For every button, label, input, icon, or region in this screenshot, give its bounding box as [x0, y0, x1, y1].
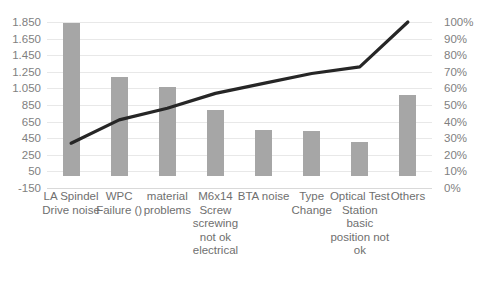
pareto-chart: 1.8501.6501.4501.2501.05085065045025050-… — [0, 0, 499, 292]
y-axis-right-tick: 60% — [444, 82, 467, 94]
y-axis-left-tick: 250 — [22, 149, 41, 161]
gridline — [47, 22, 432, 23]
bar — [159, 87, 176, 175]
y-axis-left-tick: 1.650 — [12, 33, 41, 45]
bar — [207, 110, 224, 175]
gridline — [47, 155, 432, 156]
gridline — [47, 171, 432, 172]
bar — [63, 23, 80, 176]
y-axis-left-tick: 850 — [22, 99, 41, 111]
y-axis-right-tick: 10% — [444, 165, 467, 177]
gridline — [47, 72, 432, 73]
gridline — [47, 88, 432, 89]
y-axis-left-tick: 1.250 — [12, 66, 41, 78]
bar — [303, 131, 320, 176]
y-axis-left-tick: 1.450 — [12, 49, 41, 61]
y-axis-left-tick: 650 — [22, 116, 41, 128]
y-axis-left-tick: 1.850 — [12, 16, 41, 28]
y-axis-left-tick: 1.050 — [12, 82, 41, 94]
gridline — [47, 188, 432, 189]
x-axis-category-label: Others — [377, 190, 439, 204]
gridline — [47, 105, 432, 106]
plot-area — [47, 22, 432, 188]
y-axis-right-tick: 80% — [444, 49, 467, 61]
gridline — [47, 39, 432, 40]
y-axis-right-tick: 30% — [444, 132, 467, 144]
x-axis-category-labels: LA Spindel Drive noiseWPC Failure ()mate… — [0, 190, 499, 292]
y-axis-left-tick: 50 — [28, 165, 41, 177]
y-axis-right-tick: 20% — [444, 149, 467, 161]
y-axis-left-tick: 450 — [22, 132, 41, 144]
bar — [111, 77, 128, 176]
gridline — [47, 55, 432, 56]
bar — [351, 142, 368, 176]
y-axis-right-tick: 90% — [444, 33, 467, 45]
y-axis-right-tick: 100% — [444, 16, 473, 28]
y-axis-right-tick: 40% — [444, 116, 467, 128]
bar — [255, 130, 272, 176]
gridline — [47, 122, 432, 123]
bar — [399, 95, 416, 176]
y-axis-right-tick: 50% — [444, 99, 467, 111]
gridline — [47, 138, 432, 139]
y-axis-right-tick: 70% — [444, 66, 467, 78]
